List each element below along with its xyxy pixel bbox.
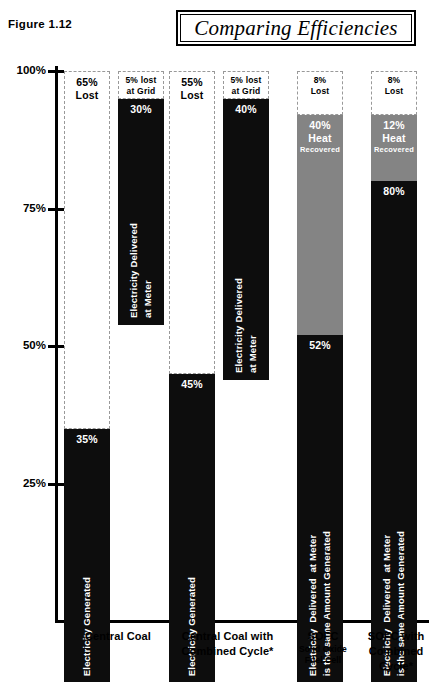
segment-value: 40% <box>235 99 257 116</box>
y-tick-label: 50% <box>0 339 46 351</box>
category-label-line: Cycle* <box>360 659 429 674</box>
segment-value: 40% <box>309 115 331 132</box>
y-tick-mark <box>48 70 64 73</box>
bar-segment-lost: 65%Lost <box>64 71 110 429</box>
segment-sublabel: Recovered <box>374 145 414 154</box>
bar-rotated-label: Electricity Delivered at Meter <box>127 223 155 318</box>
category-label: SOFC withCombinedCycle* <box>360 629 429 674</box>
segment-label: Lost <box>76 89 99 102</box>
category-sublabel-line: Fuel Cell <box>288 655 358 666</box>
y-tick-label: 100% <box>0 64 46 76</box>
segment-value: 65% <box>76 72 98 89</box>
category-sublabel-line: Solid Oxide <box>288 644 358 655</box>
segment-value: 80% <box>383 181 405 198</box>
bar-rotated-label-wrap: Electricity Generated <box>64 577 110 676</box>
bar-rotated-label: Electricity Delivered at Meter <box>232 278 260 373</box>
bar-column[interactable]: 5% lostat Grid40%Electricity Delivered a… <box>223 71 269 621</box>
bar-rotated-label-wrap: Electricity Generated <box>169 577 215 676</box>
category-label-line: Combined <box>360 644 429 659</box>
y-tick-mark <box>48 208 64 211</box>
bar-segment-black: 35%Electricity Generated <box>64 429 110 682</box>
y-tick-label: 25% <box>0 477 46 489</box>
category-label: Central Coal withCombined Cycle* <box>160 629 295 659</box>
segment-value: 8% <box>314 72 327 86</box>
bar-rotated-label-wrap: Electricity Delivered at Meter <box>223 278 269 373</box>
y-tick-label: 75% <box>0 202 46 214</box>
category-label-line: Central Coal with <box>160 629 295 644</box>
segment-value: 8% <box>388 72 401 86</box>
bar-segment-lost: 5% lostat Grid <box>118 71 164 99</box>
segment-label: at Grid <box>232 86 261 97</box>
bar-rotated-label: Electricity Generated <box>185 577 199 676</box>
segment-value: 30% <box>130 99 152 116</box>
bar-segment-gray: 12%HeatRecovered <box>371 115 417 181</box>
bar-column[interactable]: 8%Lost12%HeatRecovered80%Electricity Del… <box>371 71 417 621</box>
bar-segment-black: 80%Electricity Delivered at Meter is the… <box>371 181 417 682</box>
segment-value: 5% lost <box>230 72 261 86</box>
chart-plot-area: 100%75%50%25% 65%Lost35%Electricity Gene… <box>0 0 429 682</box>
segment-label: Heat <box>308 132 332 145</box>
segment-label: Lost <box>311 86 330 97</box>
segment-value: 55% <box>181 72 203 89</box>
bar-segment-black: 30%Electricity Delivered at Meter <box>118 99 164 325</box>
category-label-line: SOFC with <box>360 629 429 644</box>
bar-segment-lost: 8%Lost <box>297 71 343 115</box>
segment-label: Lost <box>181 89 204 102</box>
category-label: SOFCSolid OxideFuel Cell <box>288 629 358 666</box>
bar-rotated-label-wrap: Electricity Delivered at Meter <box>118 223 164 318</box>
segment-label: at Grid <box>127 86 156 97</box>
bar-column[interactable]: 8%Lost40%HeatRecovered52%Electricity Del… <box>297 71 343 621</box>
bar-column[interactable]: 5% lostat Grid30%Electricity Delivered a… <box>118 71 164 621</box>
segment-value: 45% <box>181 374 203 391</box>
bar-segment-black: 40%Electricity Delivered at Meter <box>223 99 269 380</box>
bar-column[interactable]: 55%Lost45%Electricity Generated <box>169 71 215 621</box>
segment-sublabel: Recovered <box>300 145 340 154</box>
segment-value: 52% <box>309 335 331 352</box>
bar-segment-lost: 55%Lost <box>169 71 215 374</box>
category-label-line: Combined Cycle* <box>160 644 295 659</box>
bar-segment-lost: 8%Lost <box>371 71 417 115</box>
segment-label: Lost <box>385 86 404 97</box>
segment-value: 5% lost <box>125 72 156 86</box>
segment-value: 12% <box>383 115 405 132</box>
bar-segment-gray: 40%HeatRecovered <box>297 115 343 335</box>
bar-rotated-label: Electricity Generated <box>80 577 94 676</box>
bar-segment-lost: 5% lostat Grid <box>223 71 269 99</box>
segment-label: Heat <box>382 132 406 145</box>
category-label-line: SOFC <box>288 629 358 644</box>
bar-column[interactable]: 65%Lost35%Electricity Generated <box>64 71 110 621</box>
segment-value: 35% <box>76 429 98 446</box>
y-tick-mark <box>48 345 64 348</box>
y-tick-mark <box>48 483 64 486</box>
